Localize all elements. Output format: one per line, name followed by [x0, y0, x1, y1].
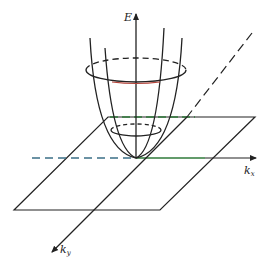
kx-label-text: k [244, 164, 251, 177]
kx-axis-label: kx [244, 165, 255, 178]
kx-ky-plane [14, 117, 255, 210]
dispersion-diagram [0, 0, 271, 267]
diagram-canvas: E kx ky [0, 0, 271, 267]
energy-label-text: E [124, 11, 132, 24]
ky-label-subscript: y [67, 249, 71, 257]
ky-axis-label: ky [60, 244, 71, 257]
kx-label-subscript: x [251, 170, 255, 178]
ky-label-text: k [60, 243, 67, 256]
energy-axis-label: E [124, 12, 132, 23]
